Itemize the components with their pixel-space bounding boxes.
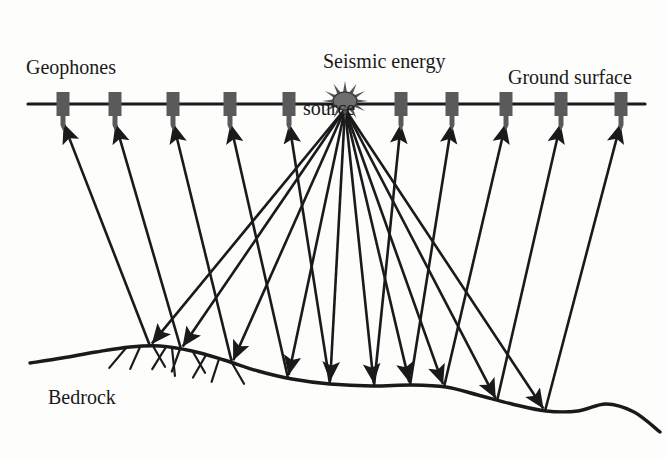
geophone-9-body[interactable] — [555, 92, 568, 116]
geophone-2-stem — [113, 116, 118, 125]
geophone-9-stem — [559, 116, 564, 125]
bedrock-hatch-2 — [130, 347, 140, 369]
seismic-source-label-line2: source — [303, 97, 445, 121]
geophones-label: Geophones — [26, 56, 116, 80]
ray-to-geophone-10-upgoing — [545, 124, 620, 411]
geophone-8-stem — [504, 116, 509, 125]
geophone-2[interactable] — [109, 92, 122, 131]
geophone-9[interactable] — [555, 92, 568, 131]
geophone-1-body[interactable] — [57, 92, 70, 116]
geophone-8-body[interactable] — [500, 92, 513, 116]
geophone-3-body[interactable] — [167, 92, 180, 116]
seismic-source-label: Seismic energy source — [303, 26, 445, 168]
ray-to-geophone-8-upgoing — [444, 124, 506, 387]
bedrock-label: Bedrock — [48, 386, 116, 410]
geophone-10[interactable] — [615, 92, 628, 131]
geophone-8[interactable] — [500, 92, 513, 131]
geophone-5[interactable] — [283, 92, 296, 131]
geophone-4[interactable] — [224, 92, 237, 131]
geophone-3[interactable] — [167, 92, 180, 131]
geophone-1-stem — [61, 116, 66, 125]
bedrock-layer — [30, 346, 660, 432]
bedrock-hatch-8 — [212, 359, 219, 382]
geophone-7[interactable] — [446, 92, 459, 131]
geophone-10-stem — [619, 116, 624, 125]
geophone-10-body[interactable] — [615, 92, 628, 116]
geophone-5-body[interactable] — [283, 92, 296, 116]
ray-to-geophone-3-upgoing — [173, 124, 232, 363]
ray-to-geophone-2-upgoing — [116, 124, 181, 349]
seismic-source-label-line1: Seismic energy — [323, 50, 445, 72]
seismic-survey-diagram: Geophones Seismic energy source Ground s… — [0, 0, 667, 460]
ground-surface-label: Ground surface — [508, 66, 632, 90]
geophone-2-body[interactable] — [109, 92, 122, 116]
geophone-5-stem — [287, 116, 292, 125]
geophone-4-body[interactable] — [224, 92, 237, 116]
bedrock-curve — [30, 346, 660, 432]
bedrock-hatch-7 — [193, 355, 206, 378]
geophone-3-stem — [171, 116, 176, 125]
geophone-4-stem — [228, 116, 233, 125]
geophone-7-body[interactable] — [446, 92, 459, 116]
geophone-7-stem — [450, 116, 455, 125]
ray-to-geophone-9-upgoing — [497, 124, 561, 401]
geophone-1[interactable] — [57, 92, 70, 131]
ray-to-geophone-1-upgoing — [64, 124, 150, 346]
ray-to-geophone-4-upgoing — [230, 124, 288, 378]
